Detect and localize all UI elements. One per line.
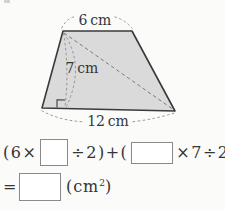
- bottom-side-label: 12 cm: [87, 113, 129, 129]
- unit-close: ): [105, 177, 112, 196]
- trapezoid-figure: 6 cm 7 cm 12 cm: [0, 0, 225, 136]
- equation-segment-close: ×7÷2): [176, 143, 225, 162]
- top-leader-right: [115, 17, 133, 29]
- equation-segment-open: (6×: [3, 143, 37, 162]
- top-leader-left: [62, 17, 75, 29]
- equals-sign: =: [3, 177, 18, 196]
- answer-box-2[interactable]: [131, 142, 173, 164]
- height-label: 7 cm: [66, 60, 99, 76]
- unit-label: (cm2): [66, 177, 112, 196]
- equation-line-1: (6× ÷2)+( ×7÷2): [3, 138, 225, 167]
- unit-open: (cm: [66, 177, 99, 196]
- equation-line-2: = (cm2): [3, 171, 112, 202]
- bottom-leader-right: [133, 113, 177, 122]
- trapezoid-shape: [42, 31, 175, 111]
- answer-box-1[interactable]: [40, 139, 68, 166]
- top-side-label: 6 cm: [79, 12, 112, 28]
- answer-box-result[interactable]: [19, 173, 61, 201]
- bottom-leader-left: [42, 111, 85, 122]
- equation-segment-middle: ÷2)+(: [71, 143, 128, 162]
